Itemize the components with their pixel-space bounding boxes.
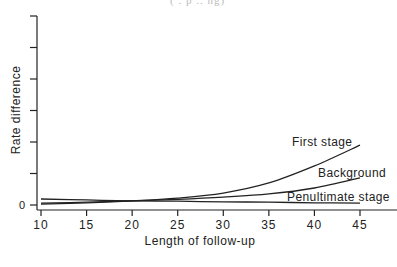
- background-label: Background: [318, 166, 386, 180]
- x-tick-label: 30: [216, 218, 231, 232]
- x-tick-label: 35: [261, 218, 276, 232]
- axes: [30, 16, 397, 216]
- y-tick-label: 0: [19, 199, 25, 211]
- x-axis-title: Length of follow-up: [145, 234, 256, 248]
- first-stage-label: First stage: [292, 135, 352, 149]
- x-tick-label: 25: [170, 218, 185, 232]
- penultimate-stage-label: Penultimate stage: [287, 190, 390, 204]
- y-axis-title: Rate difference: [9, 66, 23, 155]
- labels: 01015202530354045Length of follow-upRate…: [9, 66, 390, 248]
- x-tick-label: 20: [124, 218, 139, 232]
- line-chart: 01015202530354045Length of follow-upRate…: [0, 0, 397, 267]
- x-tick-label: 40: [307, 218, 322, 232]
- x-tick-label: 15: [79, 218, 94, 232]
- x-tick-label: 45: [352, 218, 367, 232]
- x-tick-label: 10: [33, 218, 48, 232]
